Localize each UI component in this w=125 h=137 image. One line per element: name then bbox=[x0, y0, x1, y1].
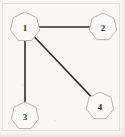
node-2[interactable]: 2 bbox=[89, 13, 116, 40]
node-2-label: 2 bbox=[101, 23, 106, 33]
graph-figure: 1 2 3 4 bbox=[0, 0, 125, 137]
node-1-label: 1 bbox=[23, 23, 28, 33]
graph-canvas: 1 2 3 4 bbox=[0, 0, 125, 137]
node-3-label: 3 bbox=[23, 112, 28, 122]
node-1[interactable]: 1 bbox=[10, 12, 39, 41]
edge-group bbox=[25, 27, 91, 103]
edge-node1-node4[interactable] bbox=[35, 37, 92, 97]
node-3[interactable]: 3 bbox=[11, 102, 38, 129]
node-4-label: 4 bbox=[98, 102, 103, 112]
